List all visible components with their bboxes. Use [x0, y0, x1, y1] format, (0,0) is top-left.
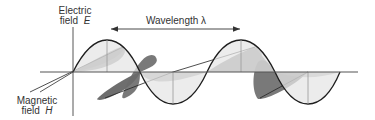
electric-field-label: Electric field E [54, 6, 96, 26]
magnetic-field-label-line2: field H [14, 106, 60, 116]
electric-field-word: field [60, 15, 78, 26]
electric-field-symbol: E [84, 15, 91, 26]
wavelength-label: Wavelength λ [136, 16, 216, 26]
magnetic-field-symbol: H [45, 105, 52, 116]
electric-field-label-line2: field E [54, 16, 96, 26]
magnetic-axis [40, 72, 73, 92]
magnetic-field-word: field [21, 105, 39, 116]
magnetic-field-label: Magnetic field H [14, 96, 60, 116]
